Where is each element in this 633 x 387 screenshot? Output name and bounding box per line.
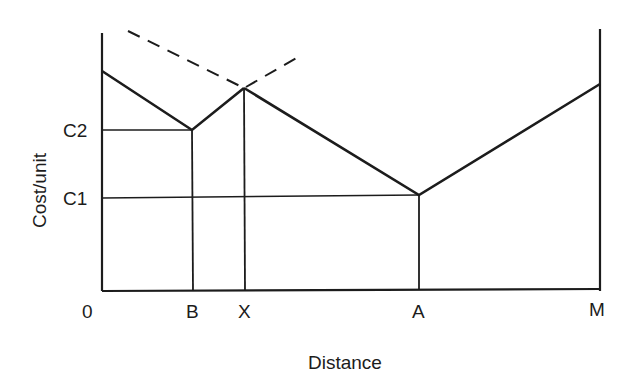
x-drop-line (244, 88, 245, 291)
x-axis-title: Distance (308, 352, 382, 373)
y-tick-c2: C2 (63, 120, 87, 141)
x-tick-m: M (589, 299, 605, 320)
y-axis-title: Cost/unit (29, 152, 50, 228)
cost-line-from-b (102, 71, 244, 130)
dashed-extension-left (128, 31, 244, 88)
x-tick-a: A (412, 301, 425, 322)
b-drop-line (192, 130, 193, 291)
dashed-extension-right (246, 57, 298, 87)
x-axis-baseline (102, 289, 600, 291)
c1-reference-line (102, 195, 419, 198)
y-tick-c1: C1 (63, 188, 87, 209)
cost-line-from-a (244, 84, 600, 195)
x-tick-x: X (238, 301, 251, 322)
cost-distance-diagram: C2 C1 0 B X A M Distance Cost/unit (0, 0, 633, 387)
x-tick-b: B (186, 301, 199, 322)
x-tick-origin: 0 (82, 301, 93, 322)
